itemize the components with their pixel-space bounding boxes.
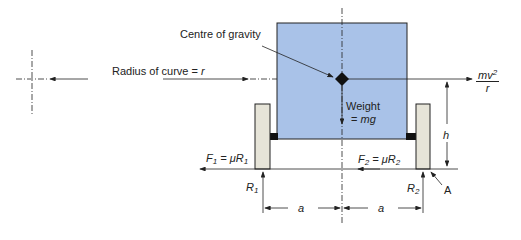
point-a-label: A [444, 184, 451, 196]
radius-label: Radius of curve = r [112, 65, 205, 77]
weight-equation: = mg [351, 113, 376, 125]
point-a-leader [431, 172, 442, 185]
r2-label: R2 [407, 182, 419, 198]
right-axle [406, 133, 416, 140]
centre-of-gravity-label: Centre of gravity [180, 28, 261, 40]
left-wheel [255, 104, 270, 169]
a-left-label: a [298, 202, 304, 214]
f1-label: F1 = μR1 [206, 152, 248, 168]
weight-label: Weight [346, 100, 380, 112]
r1-label: R1 [246, 181, 258, 197]
h-label: h [443, 129, 449, 141]
f2-label: F2 = μR2 [358, 153, 400, 169]
centripetal-force-label: mv2 r [476, 68, 499, 94]
curve-centre-mark [16, 50, 48, 115]
right-wheel [416, 104, 430, 169]
a-right-label: a [378, 202, 384, 214]
